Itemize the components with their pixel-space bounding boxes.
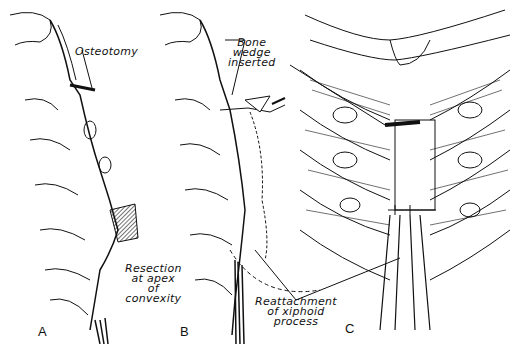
label-line: process [255, 317, 337, 327]
panel-label-a: A [38, 324, 47, 339]
label-reattachment: Reattachment of xiphoid process [255, 297, 337, 327]
panel-label-b: B [180, 324, 189, 339]
label-osteotomy: Osteotomy [75, 47, 138, 57]
panel-a-drawing [10, 12, 138, 344]
label-line: convexity [125, 294, 182, 304]
label-line: inserted [228, 58, 276, 68]
panel-label-c: C [345, 321, 354, 336]
label-bone-wedge: Bone wedge inserted [228, 38, 276, 68]
panel-c-drawing [290, 10, 510, 330]
label-resection: Resection at apex of convexity [125, 264, 182, 304]
